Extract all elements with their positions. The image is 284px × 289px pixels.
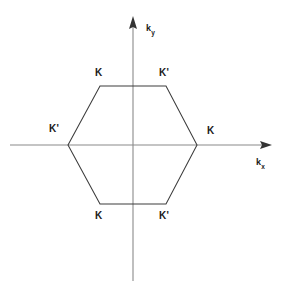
ky-axis-label-subscript: y bbox=[151, 29, 155, 36]
point-label-kprime-bottom-right: K' bbox=[159, 211, 169, 221]
kx-axis-label-subscript: x bbox=[261, 163, 265, 170]
point-label-k-top-left: K bbox=[95, 68, 102, 78]
ky-axis bbox=[129, 16, 137, 281]
point-label-kprime-left: K' bbox=[49, 124, 59, 134]
point-label-k-right: K bbox=[207, 126, 214, 136]
ky-axis-label: ky bbox=[146, 24, 155, 35]
point-label-kprime-top-right: K' bbox=[159, 68, 169, 78]
kx-axis-label: kx bbox=[256, 158, 265, 169]
kx-axis bbox=[10, 141, 272, 149]
brillouin-zone-canvas bbox=[0, 0, 284, 289]
point-label-k-bottom-left: K bbox=[95, 211, 102, 221]
brillouin-zone-figure: K K' K' K K K' ky kx bbox=[0, 0, 284, 289]
